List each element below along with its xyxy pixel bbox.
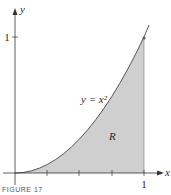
y-axis-label: y (19, 3, 25, 15)
x-axis-label: x (164, 166, 170, 178)
y-tick-label: 1 (4, 31, 10, 43)
x-tick-label: 1 (141, 178, 147, 190)
figure-caption: FIGURE 17 (2, 186, 43, 193)
x-axis-arrow-icon (157, 171, 164, 176)
y-axis-arrow-icon (13, 8, 18, 15)
curve-extension (144, 25, 149, 37)
region-r-shading (15, 37, 144, 173)
figure-diagram: y x 1 1 y = x² R (0, 0, 171, 195)
curve-label: y = x² (80, 93, 108, 105)
region-label: R (108, 130, 116, 142)
